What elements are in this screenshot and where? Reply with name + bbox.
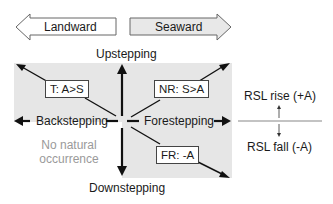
no-occurrence-line2: occurrence — [36, 152, 102, 166]
normal-regression-box: NR: S>A — [154, 80, 209, 98]
no-occurrence-note: No natural occurrence — [36, 138, 102, 166]
backstepping-label: Backstepping — [36, 114, 108, 128]
landward-label: Landward — [44, 20, 97, 34]
rsl-rise-label: RSL rise (+A) — [244, 89, 316, 103]
rsl-fall-label: RSL fall (-A) — [247, 140, 312, 154]
no-occurrence-line1: No natural — [36, 138, 102, 152]
downstepping-label: Downstepping — [89, 181, 165, 195]
forced-regression-box: FR: -A — [156, 146, 199, 164]
seaward-label: Seaward — [155, 20, 202, 34]
forestepping-label: Forestepping — [144, 114, 214, 128]
upstepping-label: Upstepping — [96, 47, 157, 61]
transgression-box: T: A>S — [45, 80, 89, 98]
